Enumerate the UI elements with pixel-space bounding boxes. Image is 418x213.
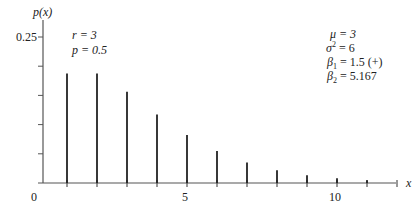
param-p: p = 0.5: [71, 43, 107, 57]
param-r: r = 3: [72, 28, 97, 42]
x-axis-label: x: [405, 176, 412, 190]
y-ticks: [38, 37, 43, 154]
moment-sigma2: σ2 = 6: [326, 40, 355, 55]
chart: p(x) 0.25 x 0 5 10 r = 3 p = 0.5 μ = 3 σ…: [0, 0, 418, 213]
x-tick-label-0: 0: [31, 190, 37, 204]
y-axis-label: p(x): [32, 5, 52, 19]
x-tick-label-10: 10: [329, 190, 341, 204]
moment-mu: μ = 3: [329, 27, 356, 41]
x-tick-label-5: 5: [182, 190, 188, 204]
y-tick-label-0.25: 0.25: [16, 30, 37, 44]
moment-beta2: β2 = 5.167: [326, 69, 377, 85]
stems: [67, 74, 367, 184]
